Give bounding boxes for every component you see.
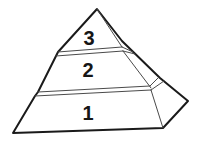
tier2-label: 2 [82,59,93,81]
pyramid-canvas: 3 2 1 [0,0,200,145]
pyramid-labels-group: 3 2 1 [82,27,94,124]
pyramid-diagram: 3 2 1 [0,0,200,145]
tier3-label: 3 [83,27,94,49]
pyramid-silhouette [13,9,188,133]
tier1-label: 1 [82,102,93,124]
pyramid-outline-group [13,9,188,133]
